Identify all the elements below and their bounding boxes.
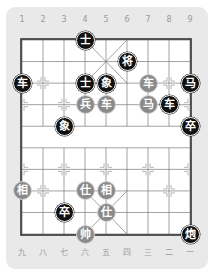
- black-general[interactable]: 将: [118, 52, 137, 71]
- black-chariot[interactable]: 车: [160, 95, 179, 114]
- red-elephant[interactable]: 相: [13, 181, 32, 200]
- file-label: 5: [99, 15, 113, 25]
- red-chariot[interactable]: 车: [139, 74, 158, 93]
- black-advisor[interactable]: 士: [76, 31, 95, 50]
- black-advisor[interactable]: 士: [76, 74, 95, 93]
- black-soldier[interactable]: 卒: [181, 117, 200, 136]
- black-elephant[interactable]: 象: [55, 117, 74, 136]
- red-horse[interactable]: 马: [139, 95, 158, 114]
- black-cannon[interactable]: 炮: [181, 225, 200, 244]
- file-label: 六: [78, 248, 92, 258]
- red-soldier[interactable]: 兵: [76, 95, 95, 114]
- red-advisor[interactable]: 仕: [76, 181, 95, 200]
- file-label: 6: [120, 15, 134, 25]
- file-label: 1: [15, 15, 29, 25]
- file-label: 8: [162, 15, 176, 25]
- file-label: 二: [162, 248, 176, 258]
- black-chariot[interactable]: 车: [13, 74, 32, 93]
- black-horse[interactable]: 马: [181, 74, 200, 93]
- file-label: 七: [57, 248, 71, 258]
- file-label: 2: [36, 15, 50, 25]
- red-elephant[interactable]: 相: [97, 181, 116, 200]
- file-label: 7: [141, 15, 155, 25]
- file-label: 一: [183, 248, 197, 258]
- file-label: 九: [15, 248, 29, 258]
- red-general[interactable]: 帅: [76, 225, 95, 244]
- file-label: 八: [36, 248, 50, 258]
- file-label: 三: [141, 248, 155, 258]
- file-label: 4: [78, 15, 92, 25]
- file-label: 9: [183, 15, 197, 25]
- file-label: 五: [99, 248, 113, 258]
- file-label: 3: [57, 15, 71, 25]
- file-label: 四: [120, 248, 134, 258]
- black-soldier[interactable]: 卒: [55, 203, 74, 222]
- red-advisor[interactable]: 仕: [97, 203, 116, 222]
- red-chariot[interactable]: 车: [97, 95, 116, 114]
- black-elephant[interactable]: 象: [97, 74, 116, 93]
